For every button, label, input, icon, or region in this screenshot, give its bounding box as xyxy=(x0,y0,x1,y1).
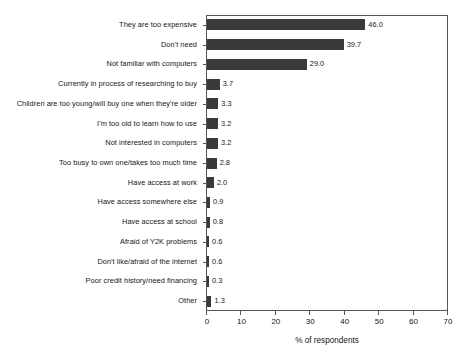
x-axis-tick-label: 10 xyxy=(226,317,256,327)
x-axis-tick xyxy=(309,311,310,315)
bar-value-label: 0.6 xyxy=(212,238,222,246)
bar xyxy=(207,177,214,188)
bar-value-label: 0.9 xyxy=(213,198,223,206)
category-label: Currently in process of researching to b… xyxy=(0,80,197,88)
bar-value-label: 3.3 xyxy=(221,100,231,108)
bar-value-label: 2.0 xyxy=(217,179,227,187)
bar-value-label: 0.8 xyxy=(213,218,223,226)
bar xyxy=(207,217,210,228)
x-axis-tick xyxy=(344,311,345,315)
y-axis-tick xyxy=(203,222,207,223)
y-axis-tick xyxy=(203,262,207,263)
category-axis-labels: They are too expensiveDon't needNot fami… xyxy=(0,15,202,311)
x-axis-title: % of respondents xyxy=(206,336,448,346)
bar xyxy=(207,296,211,307)
category-label: Afraid of Y2K problems xyxy=(0,238,197,246)
bar xyxy=(207,19,365,30)
x-axis-tick-label: 50 xyxy=(364,317,394,327)
bar-value-label: 3.2 xyxy=(221,139,231,147)
bar-chart: They are too expensiveDon't needNot fami… xyxy=(0,0,468,362)
category-label: Too busy to own one/takes too much time xyxy=(0,159,197,167)
y-axis-tick xyxy=(203,242,207,243)
category-label: Don't like/afraid of the internet xyxy=(0,258,197,266)
x-axis-tick-label: 20 xyxy=(261,317,291,327)
category-label: They are too expensive xyxy=(0,21,197,29)
x-axis-tick xyxy=(240,311,241,315)
y-axis-tick xyxy=(203,143,207,144)
bar-value-label: 29.0 xyxy=(310,60,324,68)
category-label: Don't need xyxy=(0,41,197,49)
bar-value-label: 2.8 xyxy=(220,159,230,167)
bar-value-label: 46.0 xyxy=(368,21,382,29)
y-axis-tick xyxy=(203,281,207,282)
category-label: Children are too young/will buy one when… xyxy=(0,100,197,108)
category-label: Have access somewhere else xyxy=(0,198,197,206)
category-label: Not interested in computers xyxy=(0,139,197,147)
x-axis-tick xyxy=(275,311,276,315)
y-axis-tick xyxy=(203,84,207,85)
bar xyxy=(207,256,209,267)
bar-value-label: 3.2 xyxy=(221,120,231,128)
y-axis-tick xyxy=(203,202,207,203)
x-axis-tick-label: 70 xyxy=(433,317,463,327)
x-axis-tick xyxy=(378,311,379,315)
category-label: Other xyxy=(0,297,197,305)
y-axis-tick xyxy=(203,163,207,164)
bar xyxy=(207,158,217,169)
y-axis-tick xyxy=(203,45,207,46)
y-axis-tick xyxy=(203,183,207,184)
bar xyxy=(207,276,209,287)
bar xyxy=(207,138,218,149)
x-axis-tick xyxy=(206,311,207,315)
bar xyxy=(207,197,210,208)
bar-value-label: 3.7 xyxy=(223,80,233,88)
bar-value-label: 0.6 xyxy=(212,258,222,266)
y-axis-tick xyxy=(203,25,207,26)
category-label: Have access at work xyxy=(0,179,197,187)
bars-layer: 46.039.729.03.73.33.23.22.82.00.90.80.60… xyxy=(207,15,448,311)
x-axis-tick xyxy=(447,311,448,315)
bar xyxy=(207,79,220,90)
y-axis-tick xyxy=(203,64,207,65)
bar xyxy=(207,236,209,247)
category-label: I'm too old to learn how to use xyxy=(0,120,197,128)
y-axis-tick xyxy=(203,301,207,302)
bar-value-label: 0.3 xyxy=(212,277,222,285)
bar xyxy=(207,118,218,129)
x-axis-tick-label: 30 xyxy=(295,317,325,327)
bar-value-label: 39.7 xyxy=(347,41,361,49)
bar xyxy=(207,98,218,109)
y-axis-tick xyxy=(203,104,207,105)
x-axis-tick-label: 60 xyxy=(399,317,429,327)
bar-value-label: 1.3 xyxy=(214,297,224,305)
bar xyxy=(207,59,307,70)
y-axis-tick xyxy=(203,124,207,125)
x-axis-tick-label: 40 xyxy=(330,317,360,327)
x-axis-tick-label: 0 xyxy=(192,317,222,327)
x-axis-tick xyxy=(413,311,414,315)
category-label: Poor credit history/need financing xyxy=(0,277,197,285)
category-label: Not familiar with computers xyxy=(0,60,197,68)
category-label: Have access at school xyxy=(0,218,197,226)
bar xyxy=(207,39,344,50)
